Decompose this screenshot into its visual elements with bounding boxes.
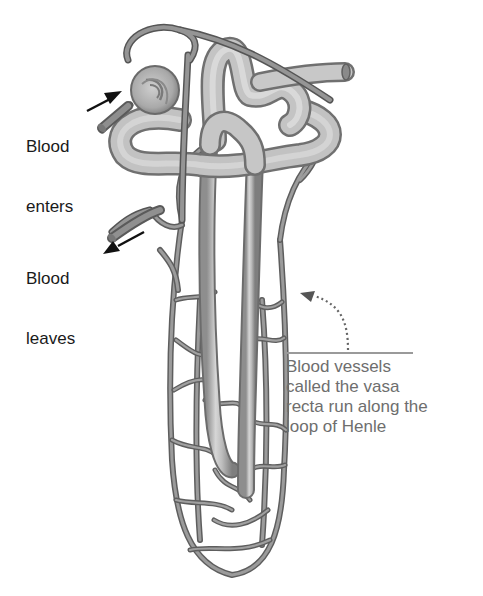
caption-line-2: called the vasa — [286, 377, 483, 397]
caption-line-3: recta run along the — [286, 397, 483, 417]
caption-line-4: loop of Henle — [286, 417, 483, 437]
blood-enters-arrow-icon — [87, 91, 122, 111]
caption-line-1: Blood vessels — [286, 357, 483, 377]
blood-leaves-line-2: leaves — [26, 329, 75, 349]
vasa-recta-caption: Blood vessels called the vasa recta run … — [286, 357, 483, 437]
blood-leaves-line-1: Blood — [26, 269, 75, 289]
loop-of-henle — [207, 140, 255, 490]
blood-leaves-label: Blood leaves — [26, 229, 75, 369]
blood-enters-line-2: enters — [26, 197, 73, 217]
caption-rule — [286, 352, 413, 354]
blood-enters-line-1: Blood — [26, 137, 73, 157]
glomerulus — [131, 66, 179, 114]
caption-pointer-dotted-arrow-icon — [300, 291, 348, 350]
blood-enters-label: Blood enters — [26, 97, 73, 237]
